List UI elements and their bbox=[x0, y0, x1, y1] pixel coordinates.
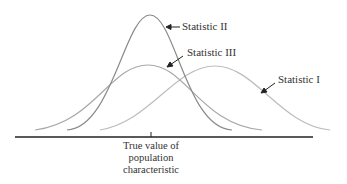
arrow-statistic-i bbox=[261, 83, 275, 93]
true-value-label: True value of population characteristic bbox=[100, 140, 202, 176]
curve-statistic-iii bbox=[35, 65, 262, 130]
label-statistic-ii: Statistic II bbox=[182, 20, 228, 32]
axis-label-line-2: population bbox=[100, 152, 202, 164]
curve-statistic-ii bbox=[67, 15, 232, 130]
axis-label-line-3: characteristic bbox=[100, 164, 202, 176]
arrow-statistic-ii bbox=[166, 25, 180, 30]
label-statistic-iii: Statistic III bbox=[187, 46, 237, 58]
label-statistic-i: Statistic I bbox=[278, 73, 320, 85]
axis-label-line-1: True value of bbox=[100, 140, 202, 152]
